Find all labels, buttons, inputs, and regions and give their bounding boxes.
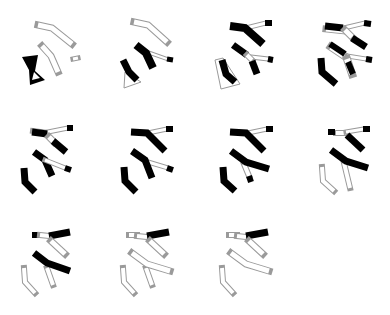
filled-segment [167, 168, 173, 170]
filled-segment [167, 59, 173, 60]
outline-segment-interior [237, 236, 246, 237]
outline-segment-interior [73, 58, 78, 59]
filled-segment [364, 23, 371, 24]
filled-segment [268, 59, 273, 60]
filled-segment [147, 232, 169, 236]
filled-segment [49, 232, 70, 236]
filled-segment [65, 168, 71, 170]
filled-segment [252, 61, 257, 74]
filled-segment [246, 232, 268, 236]
filled-segment [366, 59, 372, 60]
motion-sequence-diagram [0, 0, 390, 315]
outline-segment-interior [40, 235, 49, 236]
filled-segment [325, 26, 343, 28]
diagram-canvas [0, 0, 390, 315]
filled-segment [32, 132, 47, 134]
outline-segment-interior [137, 236, 147, 237]
filled-segment [249, 176, 251, 182]
